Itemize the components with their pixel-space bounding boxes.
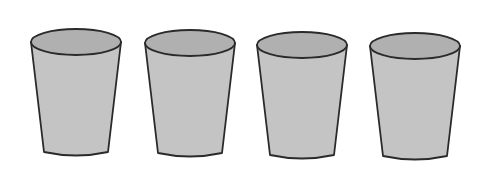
cup-opening bbox=[31, 29, 121, 55]
cup-body bbox=[31, 42, 121, 156]
cup-body bbox=[145, 43, 235, 157]
cup bbox=[370, 33, 460, 160]
cup bbox=[257, 32, 347, 159]
cup bbox=[31, 29, 121, 156]
cup bbox=[145, 30, 235, 157]
cups-illustration bbox=[0, 0, 477, 170]
cup-opening bbox=[370, 33, 460, 59]
cup-opening bbox=[257, 32, 347, 58]
cup-body bbox=[370, 46, 460, 160]
cup-body bbox=[257, 45, 347, 159]
cup-opening bbox=[145, 30, 235, 56]
